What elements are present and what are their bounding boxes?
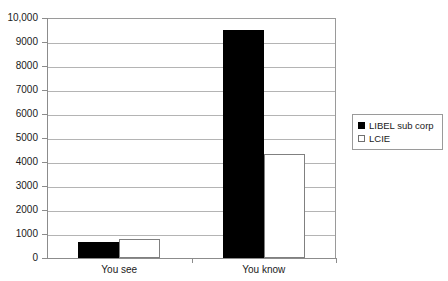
y-axis-tick-mark: [42, 234, 47, 235]
x-axis-end-tick: [336, 258, 337, 263]
bar: [119, 239, 160, 258]
y-axis-tick-label: 9000: [0, 37, 38, 47]
legend-item-label: LIBEL sub corp: [369, 121, 434, 131]
bar: [223, 30, 264, 258]
legend-item: LCIE: [358, 132, 438, 145]
legend-swatch-filled-square-icon: [358, 122, 365, 129]
y-axis-tick-mark: [42, 90, 47, 91]
y-axis-tick-label: 8000: [0, 61, 38, 71]
plot-area: [47, 18, 336, 258]
y-axis-tick-mark: [42, 186, 47, 187]
x-axis-category-divider: [192, 258, 193, 263]
bar-chart: 010002000300040005000600070008000900010,…: [0, 0, 448, 281]
y-axis-tick-mark: [42, 42, 47, 43]
y-axis-tick-label: 6000: [0, 109, 38, 119]
y-axis-tick-mark: [42, 162, 47, 163]
y-axis-tick-label: 7000: [0, 85, 38, 95]
y-axis-tick-mark: [42, 138, 47, 139]
chart-legend: LIBEL sub corp LCIE: [352, 114, 443, 150]
y-axis-tick-label: 10,000: [0, 13, 38, 23]
x-axis-category-label: You know: [204, 264, 324, 276]
y-axis-tick-label: 4000: [0, 157, 38, 167]
y-axis-tick-label: 2000: [0, 205, 38, 215]
y-axis-tick-label: 1000: [0, 229, 38, 239]
y-axis-tick-mark: [42, 114, 47, 115]
legend-item-label: LCIE: [369, 134, 390, 144]
y-axis-line: [47, 18, 48, 259]
bars-layer: [47, 19, 335, 258]
y-axis-tick-mark: [42, 210, 47, 211]
y-axis-tick-label: 5000: [0, 133, 38, 143]
legend-swatch-open-square-icon: [358, 135, 365, 142]
bar: [264, 154, 305, 258]
y-axis-tick-mark: [42, 18, 47, 19]
y-axis-tick-mark: [42, 66, 47, 67]
y-axis-tick-label: 0: [0, 253, 38, 263]
x-axis-category-label: You see: [59, 264, 179, 276]
y-axis-tick-mark: [42, 258, 47, 259]
bar: [78, 242, 119, 258]
y-axis-tick-label: 3000: [0, 181, 38, 191]
legend-item: LIBEL sub corp: [358, 119, 438, 132]
